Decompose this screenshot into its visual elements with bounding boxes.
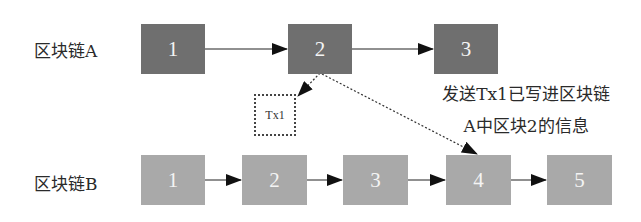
note-line-2: A中区块2的信息 <box>428 112 624 137</box>
chain-b-block-3: 3 <box>343 155 408 205</box>
chain-b-block-4: 4 <box>446 155 511 205</box>
cross-chain-diagram: 区块链A 区块链B 1 2 3 Tx1 发送Tx1已写进区块链 A中区块2的信息… <box>0 0 641 222</box>
chain-b-block-2: 2 <box>242 155 307 205</box>
chain-a-block-1: 1 <box>141 24 205 74</box>
dotted-arrow-a2-to-tx1 <box>298 73 320 96</box>
chain-b-block-5: 5 <box>547 155 612 205</box>
chain-b-block-1: 1 <box>141 155 205 205</box>
chain-a-label: 区块链A <box>34 37 97 62</box>
chain-a-block-3: 3 <box>434 24 498 74</box>
note-line-1: 发送Tx1已写进区块链 <box>428 80 624 105</box>
chain-a-block-2: 2 <box>288 24 352 74</box>
transaction-tx1-box: Tx1 <box>254 94 296 136</box>
chain-b-label: 区块链B <box>34 170 98 195</box>
